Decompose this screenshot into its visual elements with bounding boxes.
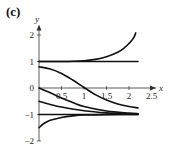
solution-curve bbox=[39, 67, 138, 108]
x-tick-label: 1 bbox=[82, 91, 87, 101]
solution-curve bbox=[39, 88, 138, 114]
y-tick-label: 2 bbox=[30, 30, 35, 40]
x-axis-arrow-icon bbox=[150, 86, 156, 91]
solution-curves-chart: yx0.511.522.5210−1−2 bbox=[0, 0, 182, 150]
y-tick-label: −1 bbox=[24, 110, 34, 120]
x-axis-label: x bbox=[158, 83, 163, 93]
solution-curve bbox=[39, 115, 138, 128]
y-tick-label: −2 bbox=[24, 136, 34, 146]
x-tick-label: 2 bbox=[127, 91, 132, 101]
x-tick-label: 2.5 bbox=[146, 91, 158, 101]
y-axis-arrow-icon bbox=[37, 24, 42, 30]
axes: yx0.511.522.5210−1−2 bbox=[24, 14, 163, 146]
y-axis-label: y bbox=[34, 14, 39, 24]
y-tick-label: 0 bbox=[30, 83, 35, 93]
y-tick-label: 1 bbox=[30, 57, 35, 67]
curves bbox=[39, 33, 138, 128]
solution-curve bbox=[39, 33, 136, 62]
